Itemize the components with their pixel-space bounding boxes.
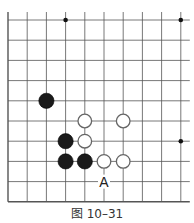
black-stone bbox=[77, 154, 92, 169]
star-point bbox=[179, 18, 184, 23]
black-stone bbox=[58, 134, 73, 149]
black-stone bbox=[39, 93, 54, 108]
white-stone bbox=[78, 134, 92, 148]
figure-caption: 图 10–31 bbox=[0, 206, 194, 222]
star-point bbox=[179, 139, 184, 144]
white-stone bbox=[78, 114, 92, 128]
white-stone bbox=[116, 155, 130, 169]
white-stone bbox=[116, 114, 130, 128]
star-point bbox=[63, 18, 68, 23]
black-stone bbox=[58, 154, 73, 169]
point-label: A bbox=[99, 174, 109, 190]
go-board: A bbox=[0, 0, 194, 210]
white-stone bbox=[97, 155, 111, 169]
